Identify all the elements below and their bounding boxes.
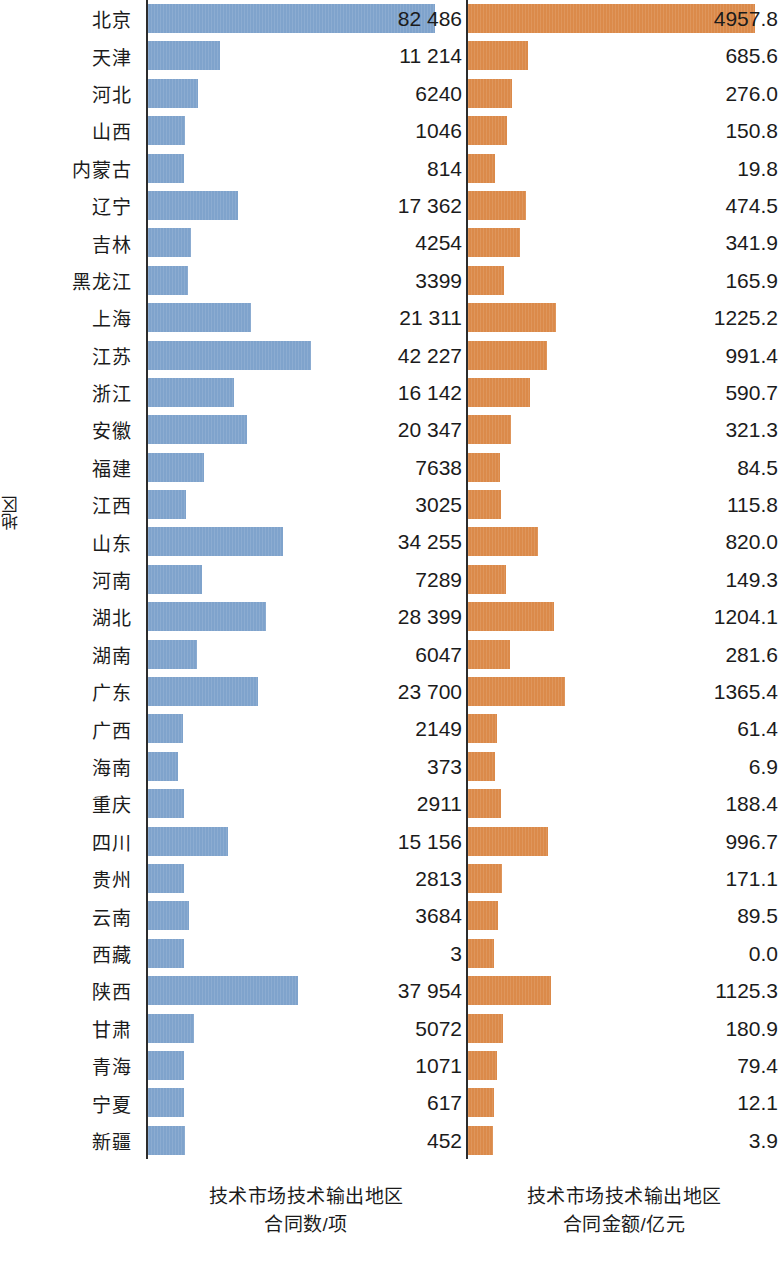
bar-value-label: 1071 [415,1047,462,1084]
bar [468,527,538,556]
chart-row: 安徽20 347321.3 [0,411,782,448]
category-label: 重庆 [0,790,146,817]
bar-value-label: 1125.3 [715,972,778,1009]
chart-row: 内蒙古81419.8 [0,150,782,187]
bar-panel-contracts: 3025 [146,486,466,523]
bar [148,415,247,444]
bar-panel-amount: 1225.2 [466,299,782,336]
category-label: 山东 [0,529,146,556]
bar [468,640,510,669]
bar [148,901,189,930]
bar-value-label: 590.7 [725,374,778,411]
x-axis-caption-contracts: 技术市场技术输出地区 合同数/项 [146,1183,466,1238]
bar [468,266,504,295]
category-label: 山西 [0,117,146,144]
bar-value-label: 12.1 [737,1084,778,1121]
category-label: 上海 [0,304,146,331]
category-label: 西藏 [0,940,146,967]
bar [468,789,501,818]
bar-panel-contracts: 617 [146,1084,466,1121]
bar-panel-contracts: 21 311 [146,299,466,336]
chart-row: 宁夏61712.1 [0,1084,782,1121]
bar [148,939,184,968]
chart-row: 贵州2813171.1 [0,860,782,897]
chart-row: 湖南6047281.6 [0,636,782,673]
bar-value-label: 4957.8 [714,0,778,37]
bar [148,1014,194,1043]
bar-panel-amount: 820.0 [466,523,782,560]
category-label: 甘肃 [0,1015,146,1042]
chart-row: 浙江16 142590.7 [0,374,782,411]
bar-panel-amount: 685.6 [466,37,782,74]
bar-panel-contracts: 82 486 [146,0,466,37]
bar [148,864,184,893]
bar [468,939,494,968]
bar [148,602,266,631]
bar-value-label: 3 [450,935,462,972]
bar-panel-contracts: 2813 [146,860,466,897]
category-label: 广西 [0,716,146,743]
chart-row: 北京82 4864957.8 [0,0,782,37]
bar-panel-contracts: 814 [146,150,466,187]
figure-root: 地区 北京82 4864957.8天津11 214685.6河北6240276.… [0,0,782,1264]
bar-value-label: 79.4 [737,1047,778,1084]
bar-panel-contracts: 3399 [146,262,466,299]
bar [148,79,198,108]
bar-value-label: 3684 [415,897,462,934]
bar [468,415,511,444]
bar-panel-contracts: 16 142 [146,374,466,411]
bar [148,827,228,856]
caption-line-1: 技术市场技术输出地区 [466,1183,782,1211]
bar-panel-contracts: 7638 [146,449,466,486]
bar [148,41,220,70]
bar [148,1088,184,1117]
bar [148,453,204,482]
bar [148,677,258,706]
category-label: 黑龙江 [0,267,146,294]
bar-panel-amount: 19.8 [466,150,782,187]
bar-value-label: 452 [427,1122,462,1159]
category-label: 青海 [0,1052,146,1079]
bar-value-label: 4254 [415,224,462,261]
chart-row: 辽宁17 362474.5 [0,187,782,224]
bar-value-label: 89.5 [737,897,778,934]
bar-value-label: 281.6 [725,636,778,673]
bar-value-label: 2813 [415,860,462,897]
bar-panel-amount: 171.1 [466,860,782,897]
bar [148,1126,185,1155]
bar [148,565,202,594]
bar-panel-contracts: 5072 [146,1010,466,1047]
bar-value-label: 6.9 [749,748,778,785]
category-label: 贵州 [0,865,146,892]
bar-panel-amount: 0.0 [466,935,782,972]
bar-panel-contracts: 452 [146,1122,466,1159]
bar [468,602,554,631]
category-label: 江西 [0,491,146,518]
bar-panel-amount: 4957.8 [466,0,782,37]
bar-panel-amount: 996.7 [466,823,782,860]
bar-panel-contracts: 2911 [146,785,466,822]
bar-panel-amount: 590.7 [466,374,782,411]
category-label: 新疆 [0,1127,146,1154]
bar-value-label: 6047 [415,636,462,673]
chart-row: 海南3736.9 [0,748,782,785]
bar-value-label: 28 399 [398,598,462,635]
category-label: 内蒙古 [0,155,146,182]
bar [468,714,497,743]
bar [468,752,495,781]
category-label: 安徽 [0,416,146,443]
caption-spacer [0,1183,146,1238]
bar-panel-contracts: 42 227 [146,337,466,374]
category-label: 福建 [0,454,146,481]
chart-row: 新疆4523.9 [0,1122,782,1159]
bar-value-label: 991.4 [725,337,778,374]
chart-row: 河南7289149.3 [0,561,782,598]
chart-row: 江苏42 227991.4 [0,337,782,374]
bar-value-label: 0.0 [749,935,778,972]
bar-value-label: 3399 [415,262,462,299]
bar [468,490,501,519]
chart-row: 福建763884.5 [0,449,782,486]
bar-panel-amount: 180.9 [466,1010,782,1047]
bar [468,116,507,145]
bar-panel-amount: 61.4 [466,710,782,747]
